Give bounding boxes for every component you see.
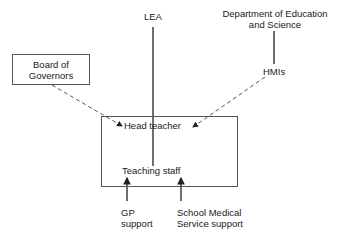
sms-label-line2: Service support — [177, 218, 243, 229]
gp-label: GP support — [121, 207, 153, 229]
sms-label-line1: School Medical — [177, 207, 243, 218]
des-label-line1: Department of Education — [220, 8, 330, 19]
teaching-staff-label: Teaching staff — [122, 165, 180, 176]
governors-label-line2: Governors — [12, 70, 90, 81]
hmis-label: HMIs — [263, 66, 285, 77]
gp-label-line1: GP — [121, 207, 153, 218]
head-teacher-label: Head teacher — [124, 120, 181, 131]
lea-label: LEA — [144, 11, 162, 22]
governors-label: Board of Governors — [12, 59, 90, 81]
governors-label-line1: Board of — [12, 59, 90, 70]
sms-label: School Medical Service support — [177, 207, 243, 229]
des-label: Department of Education and Science — [220, 8, 330, 30]
gp-label-line2: support — [121, 218, 153, 229]
des-label-line2: and Science — [220, 19, 330, 30]
